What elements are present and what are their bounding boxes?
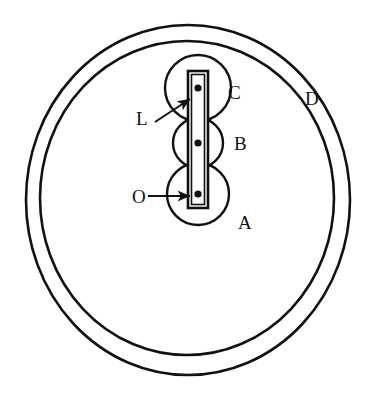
mechanism-diagram: A B C D L O <box>0 0 386 405</box>
label-o: O <box>132 186 146 207</box>
label-c: C <box>228 82 241 103</box>
label-d: D <box>305 88 319 109</box>
pivot-dot-a <box>194 190 201 197</box>
label-l: L <box>136 108 148 129</box>
pivot-dot-b <box>194 139 201 146</box>
label-b: B <box>234 133 247 154</box>
label-a: A <box>238 212 252 233</box>
figure-canvas: A B C D L O <box>0 0 386 405</box>
pivot-dot-c <box>194 84 201 91</box>
